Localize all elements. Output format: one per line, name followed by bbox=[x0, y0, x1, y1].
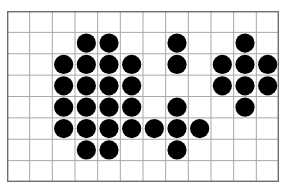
grid-dot bbox=[99, 76, 118, 95]
grid-dot bbox=[122, 76, 141, 95]
grid-dot bbox=[99, 140, 118, 159]
grid-dot bbox=[77, 55, 96, 74]
grid-dot bbox=[99, 119, 118, 138]
grid-dot bbox=[77, 98, 96, 117]
grid-dot bbox=[167, 33, 186, 52]
grid-dot bbox=[235, 98, 254, 117]
grid-dot bbox=[235, 55, 254, 74]
dot-grid-svg bbox=[7, 11, 279, 182]
grid-dot bbox=[258, 76, 277, 95]
grid-dot bbox=[122, 119, 141, 138]
grid-dot bbox=[77, 76, 96, 95]
grid-dot bbox=[99, 98, 118, 117]
dot-grid bbox=[7, 11, 279, 182]
grid-dot bbox=[122, 98, 141, 117]
grid-dot bbox=[167, 140, 186, 159]
grid-dot bbox=[145, 119, 164, 138]
grid-dot bbox=[99, 55, 118, 74]
grid-dot bbox=[190, 119, 209, 138]
grid-dot bbox=[77, 33, 96, 52]
figure-canvas bbox=[0, 0, 287, 191]
grid-dot bbox=[54, 119, 73, 138]
grid-dot bbox=[54, 76, 73, 95]
grid-dot bbox=[54, 55, 73, 74]
grid-dot bbox=[235, 33, 254, 52]
grid-dot bbox=[167, 119, 186, 138]
grid-dot bbox=[99, 33, 118, 52]
grid-dot bbox=[258, 55, 277, 74]
grid-dot bbox=[167, 98, 186, 117]
grid-dot bbox=[235, 76, 254, 95]
grid-dot bbox=[77, 140, 96, 159]
grid-dot bbox=[213, 76, 232, 95]
grid-dot bbox=[167, 55, 186, 74]
grid-dot bbox=[77, 119, 96, 138]
grid-dot bbox=[213, 55, 232, 74]
grid-dot bbox=[54, 98, 73, 117]
grid-dot bbox=[122, 55, 141, 74]
